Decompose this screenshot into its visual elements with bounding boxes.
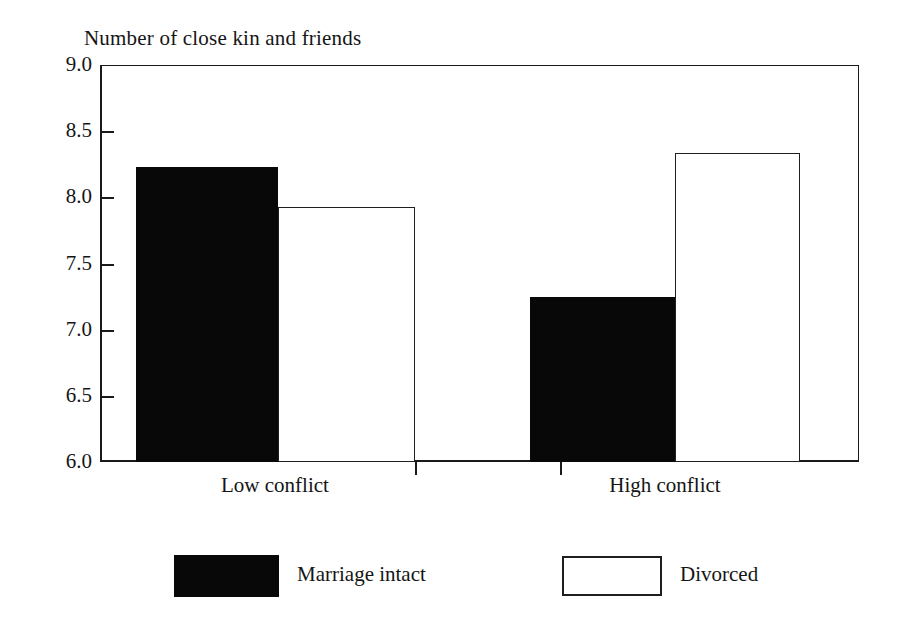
y-axis-tick-label: 9.0 xyxy=(22,54,92,75)
bar-low-conflict-marriage-intact xyxy=(136,167,278,462)
y-axis-tick-label-text: 7.5 xyxy=(28,253,92,274)
legend-swatch-marriage-intact xyxy=(174,555,279,597)
chart-figure: Number of close kin and friends 9.08.58.… xyxy=(0,0,902,622)
y-axis-tick xyxy=(100,131,114,133)
y-axis-tick-label-text: 8.5 xyxy=(28,120,92,141)
y-axis-tick xyxy=(100,396,114,398)
y-axis-tick xyxy=(100,330,114,332)
y-axis-tick-label: 6.5 xyxy=(22,385,92,406)
y-axis-tick-label-text: 9.0 xyxy=(28,54,92,75)
y-axis-tick-label: 8.5 xyxy=(22,120,92,141)
y-axis-tick-label: 7.5 xyxy=(22,253,92,274)
y-axis-tick-label: 8.0 xyxy=(22,186,92,207)
y-axis-tick-label-text: 6.0 xyxy=(28,451,92,472)
x-axis-tick xyxy=(415,462,417,475)
x-axis-group-label: High conflict xyxy=(560,472,770,498)
legend-label-divorced: Divorced xyxy=(680,561,758,587)
y-axis-tick xyxy=(100,197,114,199)
bar-high-conflict-divorced xyxy=(675,153,800,462)
y-axis-tick-label-text: 8.0 xyxy=(28,186,92,207)
y-axis-tick xyxy=(100,264,114,266)
bar-high-conflict-marriage-intact xyxy=(530,297,675,462)
chart-axis-title: Number of close kin and friends xyxy=(84,25,361,51)
legend-swatch-divorced xyxy=(562,556,662,596)
y-axis-tick-label: 6.0 xyxy=(22,451,92,472)
x-axis-group-label: Low conflict xyxy=(170,472,380,498)
y-axis-tick-label-text: 6.5 xyxy=(28,385,92,406)
y-axis-tick-label: 7.0 xyxy=(22,319,92,340)
y-axis-tick-label-text: 7.0 xyxy=(28,319,92,340)
bar-low-conflict-divorced xyxy=(278,207,415,462)
legend-label-marriage-intact: Marriage intact xyxy=(297,561,426,587)
